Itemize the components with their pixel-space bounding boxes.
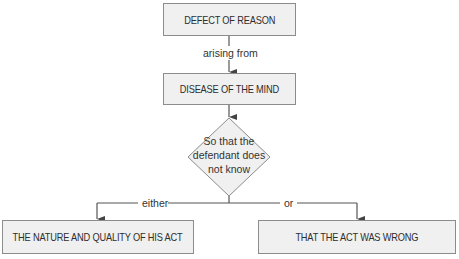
decision-line: defendant does <box>189 148 269 162</box>
decision-label: So that the defendant does not know <box>189 134 269 176</box>
edge-label-or: or <box>284 197 293 209</box>
decision-line: not know <box>189 162 269 176</box>
node-label: DISEASE OF THE MIND <box>180 83 279 95</box>
edge-label-arising-from: arising from <box>203 47 258 59</box>
node-act-was-wrong: THAT THE ACT WAS WRONG <box>258 220 456 254</box>
node-label: THE NATURE AND QUALITY OF HIS ACT <box>13 231 183 243</box>
decision-line: So that the <box>189 134 269 148</box>
node-nature-and-quality: THE NATURE AND QUALITY OF HIS ACT <box>2 220 194 254</box>
node-disease-of-the-mind: DISEASE OF THE MIND <box>163 73 296 105</box>
node-label: THAT THE ACT WAS WRONG <box>296 231 419 243</box>
node-label: DEFECT OF REASON <box>184 14 275 26</box>
edge-label-either: either <box>142 197 168 209</box>
node-defect-of-reason: DEFECT OF REASON <box>163 3 296 36</box>
